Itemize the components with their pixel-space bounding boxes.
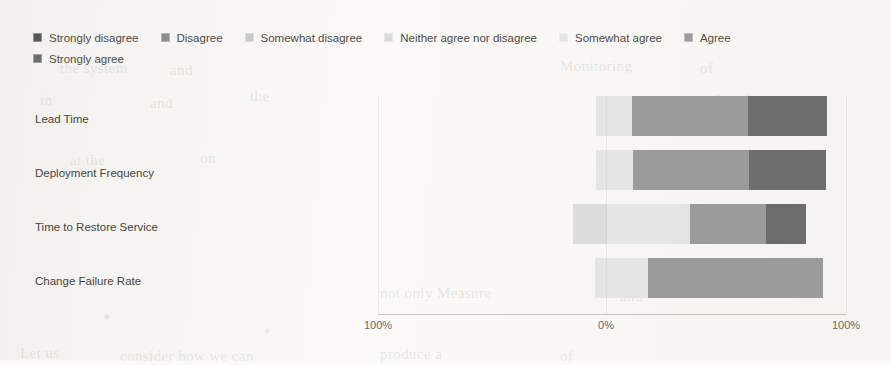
plot-area: Lead TimeDeployment FrequencyTime to Res… [0,96,891,314]
axis-line [378,314,846,315]
legend-item[interactable]: Neither agree nor disagree [384,32,537,44]
axis-tick-label: 100% [832,319,860,331]
legend-label: Strongly agree [49,53,124,65]
legend-label: Somewhat agree [575,32,662,44]
legend-label: Strongly disagree [49,32,139,44]
bar-row: Deployment Frequency [0,150,891,204]
chart-legend: Strongly disagreeDisagreeSomewhat disagr… [33,27,873,69]
bar-segment[interactable] [766,204,806,244]
stacked-bar[interactable] [0,96,891,136]
legend-swatch-icon [33,33,42,42]
legend-item[interactable]: Somewhat agree [559,32,662,44]
bar-segment[interactable] [748,96,827,136]
axis-tick-label: 0% [598,319,614,331]
legend-item[interactable]: Strongly disagree [33,32,139,44]
bar-segment[interactable] [749,150,826,190]
bar-row: Change Failure Rate [0,258,891,312]
legend-swatch-icon [684,33,693,42]
bar-row: Time to Restore Service [0,204,891,258]
gridline [846,96,847,314]
legend-item[interactable]: Somewhat disagree [245,32,363,44]
legend-item[interactable]: Disagree [161,32,223,44]
legend-item[interactable]: Agree [684,32,731,44]
gridline [378,96,379,314]
legend-row: Strongly disagreeDisagreeSomewhat disagr… [33,27,873,48]
legend-row: Strongly agree [33,48,873,69]
x-axis: 100%0%100% [0,314,891,360]
stacked-bar[interactable] [0,204,891,244]
legend-swatch-icon [384,33,393,42]
legend-swatch-icon [161,33,170,42]
bar-segment[interactable] [633,150,749,190]
legend-swatch-icon [245,33,254,42]
legend-label: Disagree [177,32,223,44]
legend-item[interactable]: Strongly agree [33,53,124,65]
axis-tick-label: 100% [364,319,392,331]
bar-segment[interactable] [632,96,748,136]
bar-segment[interactable] [607,204,690,244]
stacked-bar[interactable] [0,258,891,298]
legend-swatch-icon [33,54,42,63]
legend-label: Somewhat disagree [261,32,363,44]
gridline [606,96,607,314]
bar-segment[interactable] [595,258,648,298]
bar-row: Lead Time [0,96,891,150]
legend-label: Neither agree nor disagree [400,32,537,44]
legend-swatch-icon [559,33,568,42]
bar-segment[interactable] [596,96,632,136]
bar-segment[interactable] [690,204,766,244]
legend-label: Agree [700,32,731,44]
bar-segment[interactable] [648,258,823,298]
bar-segment[interactable] [596,150,633,190]
stacked-bar[interactable] [0,150,891,190]
bar-segment[interactable] [573,204,607,244]
